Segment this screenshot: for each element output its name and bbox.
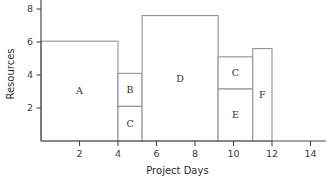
activity-block-label: C <box>232 67 239 78</box>
y-tick-label: 6 <box>27 36 33 47</box>
x-tick-label: 12 <box>266 148 278 159</box>
activity-block-label: F <box>259 89 266 100</box>
activity-block-label: D <box>176 73 184 84</box>
x-axis-title: Project Days <box>146 165 208 176</box>
x-tick-label: 4 <box>115 148 121 159</box>
activity-block-label: A <box>75 85 83 96</box>
y-axis-title: Resources <box>5 49 16 100</box>
activity-block-label: E <box>232 109 239 120</box>
y-tick-label: 4 <box>27 69 33 80</box>
y-tick-label: 2 <box>27 102 33 113</box>
x-tick-group: 2468101214 <box>76 141 316 159</box>
activity-block-label: B <box>127 84 134 95</box>
x-tick-label: 10 <box>227 148 239 159</box>
x-tick-label: 8 <box>192 148 198 159</box>
chart-plot-area: ABCDCEF24682468101214Project DaysResourc… <box>0 0 334 184</box>
resource-histogram-chart: ABCDCEF24682468101214Project DaysResourc… <box>0 0 334 184</box>
activity-blocks-group: ABCDCEF <box>41 16 272 141</box>
y-tick-label: 8 <box>27 3 33 14</box>
y-tick-group: 2468 <box>27 3 41 113</box>
x-tick-label: 14 <box>304 148 316 159</box>
activity-block-label: C <box>126 118 133 129</box>
x-tick-label: 6 <box>153 148 159 159</box>
x-tick-label: 2 <box>76 148 82 159</box>
